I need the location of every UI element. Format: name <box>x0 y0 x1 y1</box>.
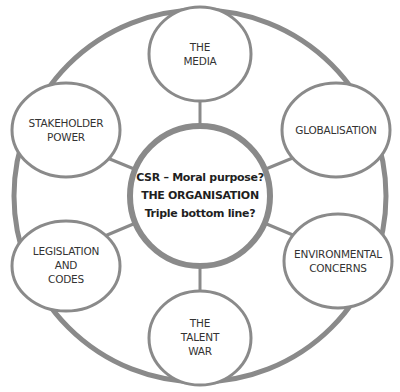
talent-line-3: WAR <box>188 344 212 358</box>
legislation-line-2: AND <box>55 258 78 272</box>
label-legislation: LEGISLATION AND CODES <box>12 240 120 290</box>
environmental-line-1: ENVIRONMENTAL <box>294 247 382 261</box>
media-line-2: MEDIA <box>183 54 216 68</box>
label-media: THE MEDIA <box>150 30 250 78</box>
label-globalisation: GLOBALISATION <box>282 116 390 144</box>
label-stakeholder: STAKEHOLDER POWER <box>12 112 120 148</box>
globalisation-line-1: GLOBALISATION <box>295 123 376 137</box>
center-label: CSR – Moral purpose? THE ORGANISATION Tr… <box>130 150 270 242</box>
label-talent: THE TALENT WAR <box>150 312 250 362</box>
center-line-3: Triple bottom line? <box>145 205 256 223</box>
center-line-1: CSR – Moral purpose? <box>136 169 264 187</box>
stakeholder-line-1: STAKEHOLDER <box>29 116 104 130</box>
talent-line-1: THE <box>190 316 210 330</box>
talent-line-2: TALENT <box>181 330 219 344</box>
environmental-line-2: CONCERNS <box>309 261 367 275</box>
center-line-2: THE ORGANISATION <box>141 187 259 205</box>
media-line-1: THE <box>190 40 210 54</box>
label-environmental: ENVIRONMENTAL CONCERNS <box>284 243 392 279</box>
legislation-line-3: CODES <box>48 272 84 286</box>
legislation-line-1: LEGISLATION <box>33 244 99 258</box>
stakeholder-line-2: POWER <box>47 130 85 144</box>
